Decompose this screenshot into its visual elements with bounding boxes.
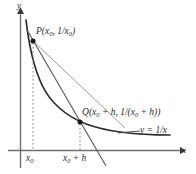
point-p-marker [31, 39, 36, 44]
point-p-y: x0 [65, 26, 72, 36]
tick-label-x0-plus-h: x0 + h [63, 154, 86, 164]
x-axis-label: x [182, 146, 186, 155]
point-q-label: Q(x0 + h, 1/(x0 + h)) [82, 108, 160, 118]
curve-equation-lhs: y [140, 125, 144, 135]
point-q-y: x0 + h [131, 107, 154, 117]
y-axis-label: y [17, 1, 21, 10]
y-axis [17, 7, 24, 168]
point-q-marker [78, 120, 83, 125]
tick-label-x0: x0 [26, 154, 33, 164]
point-p-name: P [36, 26, 42, 36]
diagram-svg [0, 0, 196, 174]
point-q-x: x0 + h [92, 107, 115, 117]
point-p-label: P(x0, 1/x0) [36, 27, 75, 37]
secant-line-PQ [27, 29, 107, 166]
point-q-name: Q [82, 107, 89, 117]
point-p-x: x0 [45, 26, 52, 36]
figure-canvas: y x P(x0, 1/x0) Q(x0 + h, 1/(x0 + h)) y … [0, 0, 196, 174]
curve-equation-label: y = 1/x [140, 126, 167, 136]
curve-equation-rhs: 1/x [155, 125, 167, 135]
